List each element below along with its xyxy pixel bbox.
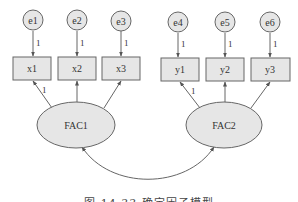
error-node-e3: e3 <box>111 11 131 31</box>
loading-label-fac2: 1 <box>191 86 196 96</box>
svg-text:e2: e2 <box>72 15 81 26</box>
observed-node-y1: y1 <box>161 58 199 81</box>
svg-text:1: 1 <box>124 38 129 48</box>
svg-text:y3: y3 <box>265 64 275 75</box>
svg-text:FAC1: FAC1 <box>64 120 88 131</box>
path-fac1-x3 <box>104 81 121 108</box>
error-node-e2: e2 <box>67 10 87 30</box>
observed-node-x2: x2 <box>58 57 96 80</box>
svg-text:1: 1 <box>273 39 278 49</box>
figure-caption: 图 14.33 确定因子模型 <box>0 194 298 202</box>
error-node-e5: e5 <box>215 12 235 32</box>
path-fac2-y1 <box>180 82 200 108</box>
svg-text:e3: e3 <box>116 16 125 27</box>
error-path-labels: 1 1 1 1 1 1 <box>36 38 278 49</box>
svg-text:e1: e1 <box>28 15 37 26</box>
svg-text:x2: x2 <box>72 63 82 74</box>
svg-text:e4: e4 <box>173 17 182 28</box>
error-node-e1: e1 <box>23 10 43 30</box>
svg-text:x1: x1 <box>27 63 37 74</box>
svg-text:1: 1 <box>228 39 233 49</box>
loading-label-fac1: 1 <box>42 85 47 95</box>
path-fac2-y3 <box>251 82 270 108</box>
svg-text:e6: e6 <box>265 17 274 28</box>
covariance-arrow-fac1-fac2 <box>82 147 214 179</box>
observed-node-y3: y3 <box>251 58 290 81</box>
error-node-e6: e6 <box>260 12 280 32</box>
svg-text:y1: y1 <box>175 64 185 75</box>
error-nodes: e1 e2 e3 e4 e5 e6 <box>23 10 280 32</box>
svg-text:y2: y2 <box>220 64 230 75</box>
observed-nodes: x1 x2 x3 y1 y2 y3 <box>13 57 290 81</box>
svg-text:FAC2: FAC2 <box>212 120 236 131</box>
error-paths <box>33 31 270 57</box>
observed-node-y2: y2 <box>206 58 244 81</box>
factor-node-fac1: FAC1 <box>37 102 115 148</box>
observed-node-x1: x1 <box>13 57 51 80</box>
svg-text:x3: x3 <box>116 63 126 74</box>
svg-text:1: 1 <box>36 38 41 48</box>
svg-text:1: 1 <box>181 39 186 49</box>
svg-text:1: 1 <box>80 38 85 48</box>
error-node-e4: e4 <box>168 12 188 32</box>
svg-text:e5: e5 <box>220 17 229 28</box>
observed-node-x3: x3 <box>102 57 140 80</box>
factor-node-fac2: FAC2 <box>186 102 262 148</box>
cfa-path-diagram: e1 e2 e3 e4 e5 e6 1 1 1 1 1 1 x1 x2 x3 y… <box>0 0 298 202</box>
